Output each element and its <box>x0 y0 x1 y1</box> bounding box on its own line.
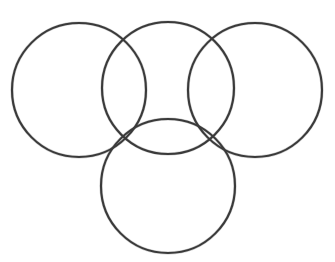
overlapping-circles-figure <box>0 0 335 262</box>
diagram-canvas <box>0 0 335 262</box>
circle-right <box>188 23 322 157</box>
circle-outline-layer <box>12 22 322 253</box>
stroke-halo-layer <box>12 22 322 253</box>
circle-top-middle <box>102 22 234 154</box>
circle-left <box>12 23 146 157</box>
circle-bottom <box>101 119 235 253</box>
